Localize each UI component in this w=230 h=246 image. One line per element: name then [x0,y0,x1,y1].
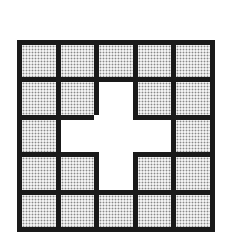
dotted-cell [61,45,95,77]
dotted-cell [176,195,210,227]
dotted-cell [138,157,172,189]
dotted-cell [61,82,95,114]
dotted-cell [61,195,95,227]
dotted-cell [176,157,210,189]
empty-cell [133,120,172,152]
dotted-cell [99,45,133,77]
dotted-cell [61,157,95,189]
dotted-cell [99,195,133,227]
dotted-cell [22,45,56,77]
empty-cell [61,120,95,152]
dotted-cell [176,120,210,152]
dotted-cell [176,45,210,77]
dotted-cell [22,120,56,152]
dotted-cell [22,82,56,114]
dotted-cell [22,195,56,227]
dotted-cell [22,157,56,189]
empty-cell [94,115,133,152]
dotted-cell [176,82,210,114]
dotted-cell [138,82,172,114]
grid-diagram [17,40,215,232]
empty-cell [99,152,133,189]
empty-cell [99,82,133,114]
dotted-cell [138,195,172,227]
dotted-cell [138,45,172,77]
